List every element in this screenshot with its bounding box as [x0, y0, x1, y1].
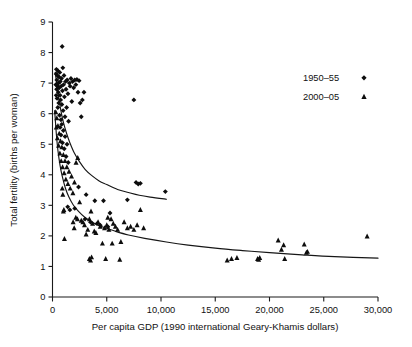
y-tick-label: 7	[40, 79, 45, 89]
data-point-triangle	[141, 225, 146, 230]
y-tick-label: 3	[40, 201, 45, 211]
data-point-diamond	[82, 90, 87, 95]
data-point-diamond	[63, 114, 68, 119]
data-point-diamond	[66, 119, 71, 124]
legend-label-1: 1950–55	[303, 73, 339, 83]
axes-group	[53, 22, 379, 297]
y-axis-ticks: 0123456789	[40, 17, 52, 302]
data-point-triangle	[110, 241, 115, 246]
legend-label-2: 2000–05	[303, 92, 339, 102]
data-point-diamond	[108, 211, 113, 216]
y-axis-title: Total fertility (births per woman)	[8, 93, 19, 226]
data-point-triangle	[229, 256, 234, 261]
data-point-triangle	[234, 255, 239, 260]
data-point-triangle	[89, 209, 94, 214]
y-tick-label: 9	[40, 17, 45, 27]
data-point-triangle	[63, 176, 68, 181]
data-point-triangle	[281, 242, 286, 247]
data-point-triangle	[77, 199, 82, 204]
x-axis-title: Per capita GDP (1990 international Geary…	[92, 321, 339, 332]
data-point-diamond	[125, 197, 130, 202]
data-point-triangle	[68, 186, 73, 191]
y-tick-label: 8	[40, 48, 45, 58]
data-point-triangle	[279, 247, 284, 252]
data-point-triangle	[105, 215, 110, 220]
x-tick-label: 30,000	[364, 305, 392, 315]
data-point-triangle	[96, 219, 101, 224]
data-point-triangle	[117, 257, 122, 262]
y-tick-label: 0	[40, 292, 45, 302]
data-point-triangle	[85, 227, 90, 232]
x-tick-label: 5,000	[95, 305, 118, 315]
data-point-triangle	[72, 225, 77, 230]
data-point-triangle	[71, 219, 76, 224]
data-point-triangle	[69, 173, 74, 178]
data-point-triangle	[55, 135, 60, 140]
data-point-triangle	[225, 257, 230, 262]
x-tick-label: 10,000	[147, 305, 175, 315]
data-point-triangle	[74, 160, 79, 165]
legend-marker-diamond	[361, 75, 366, 80]
data-point-triangle	[60, 192, 65, 197]
data-point-triangle	[138, 207, 143, 212]
data-point-diamond	[72, 206, 77, 211]
data-point-diamond	[101, 198, 106, 203]
data-point-triangle	[62, 170, 67, 175]
data-point-diamond	[65, 91, 70, 96]
data-point-triangle	[104, 222, 109, 227]
data-point-triangle	[365, 234, 370, 239]
data-point-diamond	[62, 94, 67, 99]
data-point-triangle	[62, 158, 67, 163]
data-point-triangle	[100, 241, 105, 246]
data-point-triangle	[62, 236, 67, 241]
data-point-diamond	[60, 44, 65, 49]
data-point-diamond	[76, 90, 81, 95]
data-point-diamond	[64, 105, 69, 110]
data-point-diamond	[76, 185, 81, 190]
chart-canvas: 0123456789 05,00010,00015,00020,00025,00…	[0, 0, 412, 347]
data-point-diamond	[79, 114, 84, 119]
data-point-diamond	[65, 142, 70, 147]
data-point-triangle	[66, 169, 71, 174]
data-point-triangle	[128, 224, 133, 229]
data-point-triangle	[122, 219, 127, 224]
data-point-triangle	[87, 216, 92, 221]
y-tick-label: 1	[40, 262, 45, 272]
x-tick-label: 20,000	[255, 305, 283, 315]
data-point-triangle	[61, 207, 66, 212]
y-tick-label: 4	[40, 170, 45, 180]
data-point-diamond	[60, 65, 65, 70]
data-point-triangle	[276, 238, 281, 243]
x-tick-label: 15,000	[201, 305, 229, 315]
y-tick-label: 5	[40, 140, 45, 150]
data-point-triangle	[70, 190, 75, 195]
data-point-diamond	[163, 189, 168, 194]
y-tick-label: 6	[40, 109, 45, 119]
data-point-triangle	[53, 109, 58, 114]
fertility-gdp-scatter-chart: 0123456789 05,00010,00015,00020,00025,00…	[0, 0, 412, 347]
x-axis-ticks: 05,00010,00015,00020,00025,00030,000	[50, 297, 392, 315]
data-point-triangle	[64, 164, 69, 169]
data-point-triangle	[65, 181, 70, 186]
data-point-triangle	[72, 180, 77, 185]
fit-curve-1	[55, 72, 166, 199]
data-point-triangle	[118, 239, 123, 244]
data-point-triangle	[282, 256, 287, 261]
data-point-triangle	[84, 231, 89, 236]
y-tick-label: 2	[40, 231, 45, 241]
series-2000-05-points	[53, 109, 369, 262]
fit-curve-2	[55, 111, 378, 259]
data-point-triangle	[135, 222, 140, 227]
data-point-diamond	[84, 192, 89, 197]
data-point-diamond	[69, 99, 74, 104]
data-point-triangle	[302, 242, 307, 247]
data-point-triangle	[103, 256, 108, 261]
data-point-diamond	[92, 198, 97, 203]
x-tick-label: 0	[50, 305, 55, 315]
legend: 1950–552000–05	[303, 73, 367, 102]
x-tick-label: 25,000	[310, 305, 338, 315]
legend-marker-triangle	[361, 94, 366, 99]
data-point-triangle	[60, 186, 65, 191]
data-point-diamond	[131, 97, 136, 102]
